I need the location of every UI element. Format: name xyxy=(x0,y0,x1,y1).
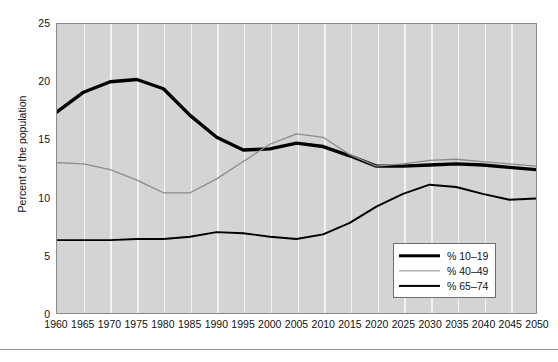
x-tick-label: 1985 xyxy=(178,318,201,330)
x-tick-label: 2040 xyxy=(472,318,495,330)
x-tick-label: 2030 xyxy=(418,318,441,330)
x-tick-label: 1980 xyxy=(151,318,174,330)
x-tick-label: 1970 xyxy=(98,318,121,330)
x-tick-label: 1965 xyxy=(71,318,94,330)
chart-legend: % 10–19 % 40–49 % 65–74 xyxy=(393,243,496,298)
x-tick-label: 1960 xyxy=(44,318,67,330)
x-tick-label: 2045 xyxy=(499,318,522,330)
x-tick-label: 2005 xyxy=(285,318,308,330)
x-tick-label: 2025 xyxy=(392,318,415,330)
x-tick-label: 2035 xyxy=(445,318,468,330)
x-tick-label: 2015 xyxy=(338,318,361,330)
x-tick-label: 2000 xyxy=(258,318,281,330)
legend-label-65-74: % 65–74 xyxy=(447,280,488,292)
chart-figure: Percent of the population 0510152025 196… xyxy=(0,0,558,362)
legend-label-10-19: % 10–19 xyxy=(447,250,488,262)
footer-divider xyxy=(0,349,558,350)
legend-label-40-49: % 40–49 xyxy=(447,265,488,277)
legend-item-65-74: % 65–74 xyxy=(399,278,488,293)
x-tick-label: 2020 xyxy=(365,318,388,330)
x-tick-label: 1975 xyxy=(124,318,147,330)
legend-swatch-40-49 xyxy=(399,265,440,277)
x-tick-label: 1990 xyxy=(205,318,228,330)
x-tick-label: 2050 xyxy=(525,318,548,330)
x-tick-label: 1995 xyxy=(231,318,254,330)
legend-item-10-19: % 10–19 xyxy=(399,248,488,263)
legend-swatch-65-74 xyxy=(399,280,440,292)
x-axis-ticks: 1960196519701975198019851990199520002005… xyxy=(0,0,558,362)
legend-item-40-49: % 40–49 xyxy=(399,263,488,278)
legend-swatch-10-19 xyxy=(399,250,440,262)
x-tick-label: 2010 xyxy=(312,318,335,330)
